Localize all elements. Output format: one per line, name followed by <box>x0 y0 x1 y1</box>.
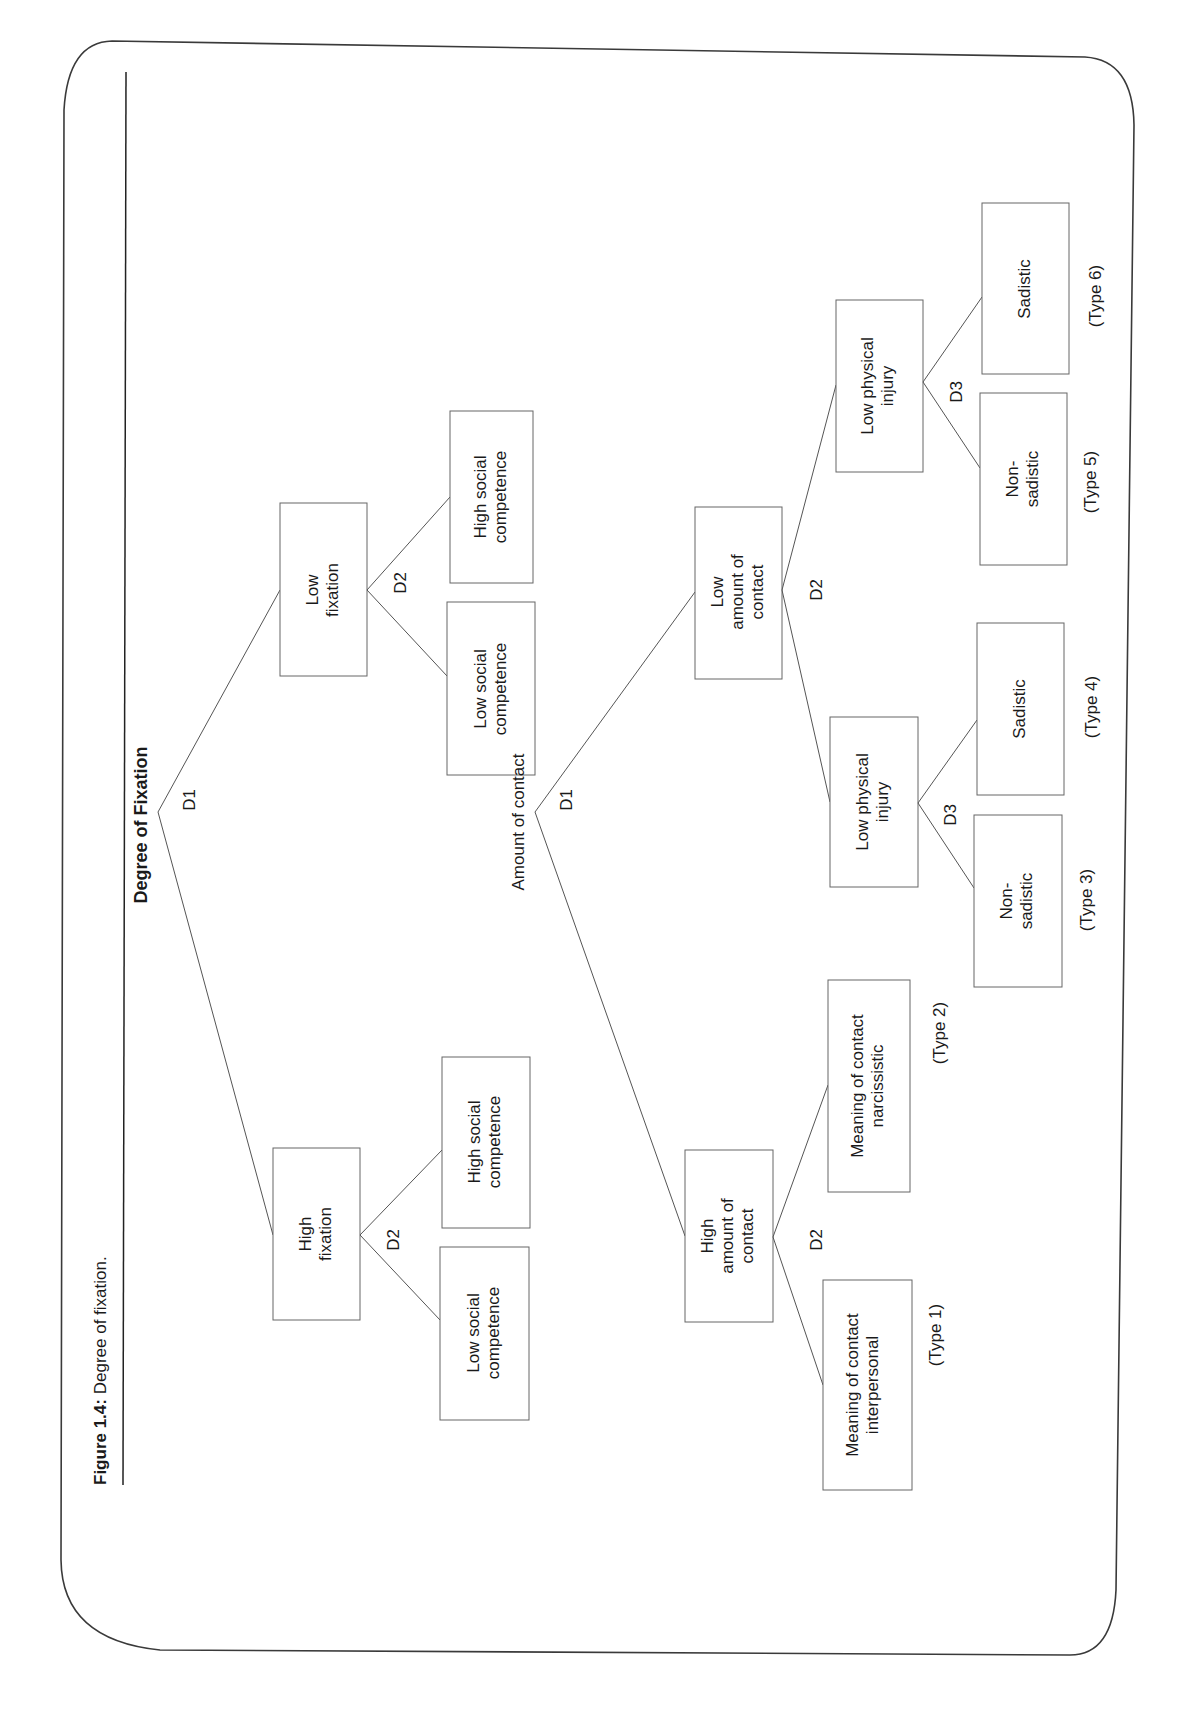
svg-text:amount of: amount of <box>728 554 747 630</box>
svg-text:amount of: amount of <box>718 1198 737 1274</box>
node-meaning-interpersonal: Meaning of contact interpersonal <box>823 1280 912 1490</box>
node-sadistic-type-4: Sadistic <box>977 623 1064 795</box>
svg-text:Low social: Low social <box>471 649 490 728</box>
edge <box>535 592 695 812</box>
svg-text:Non-: Non- <box>997 883 1016 920</box>
svg-text:Meaning of contact: Meaning of contact <box>848 1014 867 1158</box>
svg-text:Low physical: Low physical <box>858 337 877 434</box>
svg-text:competence: competence <box>484 1287 503 1380</box>
svg-text:contact: contact <box>738 1208 757 1263</box>
type-1-label: (Type 1) <box>926 1304 945 1366</box>
node-low-physical-injury-b: Low physical injury <box>836 300 923 472</box>
figure-caption: Figure 1.4: Degree of fixation. <box>91 1256 110 1485</box>
figure-canvas: Figure 1.4: Degree of fixation. Degree o… <box>0 0 1180 1710</box>
edge <box>782 590 830 802</box>
type-2-label: (Type 2) <box>930 1002 949 1064</box>
svg-text:competence: competence <box>491 451 510 544</box>
node-hf-high-social-competence: High social competence <box>442 1057 530 1228</box>
node-low-amount-of-contact: Low amount of contact <box>695 507 782 679</box>
d3-label: D3 <box>941 804 960 826</box>
d2-label: D2 <box>384 1229 403 1251</box>
svg-text:fixation: fixation <box>323 563 342 617</box>
type-4-label: (Type 4) <box>1082 676 1101 738</box>
edge <box>773 1085 828 1237</box>
d2-label: D2 <box>391 572 410 594</box>
type-5-label: (Type 5) <box>1081 451 1100 513</box>
svg-text:Low physical: Low physical <box>853 753 872 850</box>
d2-label: D2 <box>807 579 826 601</box>
svg-text:Low: Low <box>708 576 727 608</box>
svg-text:Non-: Non- <box>1003 461 1022 498</box>
node-low-physical-injury-a: Low physical injury <box>830 717 918 887</box>
svg-text:Meaning of contact: Meaning of contact <box>843 1313 862 1457</box>
svg-text:Sadistic: Sadistic <box>1015 259 1034 319</box>
type-3-label: (Type 3) <box>1077 869 1096 931</box>
tree2-title: Amount of contact <box>509 753 528 890</box>
edge <box>773 1237 823 1385</box>
svg-text:Sadistic: Sadistic <box>1010 679 1029 739</box>
node-meaning-narcissistic: Meaning of contact narcissistic <box>828 980 910 1192</box>
d2-label: D2 <box>807 1229 826 1251</box>
page-frame <box>61 41 1134 1655</box>
svg-text:competence: competence <box>491 643 510 736</box>
node-lf-high-social-competence: High social competence <box>450 411 533 583</box>
edge <box>367 590 447 676</box>
caption-label: Figure 1.4: <box>91 1399 110 1485</box>
svg-text:High social: High social <box>471 455 490 538</box>
node-low-fixation: Low fixation <box>280 503 367 676</box>
edge <box>923 297 982 382</box>
svg-text:competence: competence <box>485 1096 504 1189</box>
svg-text:sadistic: sadistic <box>1017 872 1036 929</box>
edge <box>918 720 977 803</box>
svg-text:sadistic: sadistic <box>1023 450 1042 507</box>
svg-text:High: High <box>296 1217 315 1252</box>
tree1-title: Degree of Fixation <box>131 746 151 903</box>
node-high-fixation: High fixation <box>273 1148 360 1320</box>
node-sadistic-type-6: Sadistic <box>982 203 1069 374</box>
node-lf-low-social-competence: Low social competence <box>447 602 535 775</box>
tree2-d1-label: D1 <box>557 789 576 811</box>
node-high-amount-of-contact: High amount of contact <box>685 1150 773 1322</box>
svg-text:fixation: fixation <box>316 1207 335 1261</box>
svg-text:Low: Low <box>303 574 322 606</box>
svg-text:contact: contact <box>748 564 767 619</box>
caption-rule <box>123 72 126 1485</box>
svg-text:injury: injury <box>873 781 892 822</box>
svg-text:Low social: Low social <box>464 1293 483 1372</box>
node-non-sadistic-type-5: Non- sadistic <box>980 393 1067 565</box>
edge <box>158 590 280 812</box>
svg-text:interpersonal: interpersonal <box>863 1336 882 1434</box>
edge <box>158 812 273 1235</box>
edge <box>535 812 685 1236</box>
tree1-d1-label: D1 <box>180 789 199 811</box>
node-hf-low-social-competence: Low social competence <box>440 1247 529 1420</box>
svg-text:injury: injury <box>878 365 897 406</box>
node-non-sadistic-type-3: Non- sadistic <box>974 815 1062 987</box>
caption-text: Degree of fixation. <box>91 1256 110 1399</box>
svg-text:High social: High social <box>465 1100 484 1183</box>
edge <box>782 385 836 590</box>
d3-label: D3 <box>947 381 966 403</box>
type-6-label: (Type 6) <box>1086 265 1105 327</box>
edge <box>360 1150 442 1235</box>
svg-text:narcissistic: narcissistic <box>868 1044 887 1128</box>
svg-text:High: High <box>698 1219 717 1254</box>
